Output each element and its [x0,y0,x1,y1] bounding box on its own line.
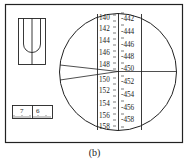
sight-lines [60,65,176,80]
right-scale-label: -448 [121,53,135,61]
right-scale-label: -452 [121,78,135,86]
vernier-label: 7 [20,107,24,115]
right-scale-label: -442 [121,15,135,23]
right-scale: -442 -444 -446 -448 -450 -452 -454 -456 … [121,15,135,124]
left-scale-label: 150 [99,76,110,84]
figure-caption: (b) [0,147,189,158]
u-part-icon [19,19,46,65]
vernier-label: 6 [36,107,40,115]
left-scale-label: 144 [99,37,110,45]
left-scale-label: 154 [99,100,110,108]
vernier-scale [13,106,53,119]
diagram: 7 6 140 142 144 146 148 150 152 154 156 … [0,0,189,168]
left-scale-label: 156 [99,112,110,120]
right-scale-label: -446 [121,41,135,49]
left-scale-label: 140 [99,14,110,22]
left-scale-label: 146 [99,49,110,57]
left-scale-label: 152 [99,87,110,95]
right-scale-label: -450 [121,65,135,73]
left-scale-label: 142 [99,25,110,33]
right-scale-label: -456 [121,104,135,112]
eyepiece-circle [60,14,177,131]
left-scale-label: 148 [99,61,110,69]
left-scale-label: 158 [99,123,110,131]
right-scale-label: -444 [121,28,135,36]
right-scale-label: -454 [121,91,135,99]
right-scale-label: -458 [121,116,135,124]
